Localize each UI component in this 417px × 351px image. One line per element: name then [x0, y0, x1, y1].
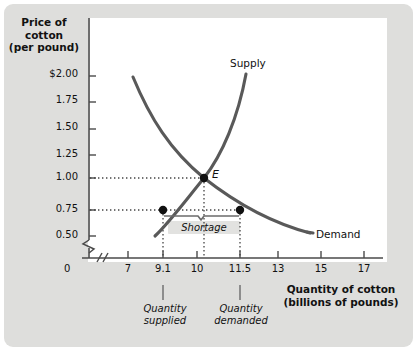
y-tick-label-1-25: 1.25 — [32, 148, 78, 159]
equilibrium-point-label: E — [212, 168, 219, 181]
shortage-label: Shortage — [168, 221, 240, 234]
x-tick-label-10: 10 — [177, 263, 217, 274]
y-axis-title: Price of cotton (per pound) — [2, 16, 86, 54]
quantity-demanded-label: Quantity demanded — [206, 303, 276, 326]
x-axis-title: Quantity of cotton (billions of pounds) — [268, 283, 414, 308]
y-tick-label-0-75: 0.75 — [32, 203, 78, 214]
x-tick-label-7: 7 — [108, 263, 148, 274]
y-tick-label-2-00: $2.00 — [32, 68, 78, 79]
y-tick-label-1-00: 1.00 — [32, 171, 78, 182]
x-tick-label-11-5: 11.5 — [220, 263, 260, 274]
quantity-supplied-label: Quantity supplied — [130, 303, 200, 326]
y-tick-label-0-50: 0.50 — [32, 229, 78, 240]
y-tick-label-1-75: 1.75 — [32, 94, 78, 105]
demand-curve-label: Demand — [316, 228, 361, 240]
origin-label: 0 — [64, 263, 70, 274]
x-tick-label-17: 17 — [344, 263, 384, 274]
supply-curve-label: Supply — [230, 57, 266, 69]
x-tick-label-15: 15 — [301, 263, 341, 274]
x-tick-label-13: 13 — [258, 263, 298, 274]
y-tick-label-1-50: 1.50 — [32, 121, 78, 132]
